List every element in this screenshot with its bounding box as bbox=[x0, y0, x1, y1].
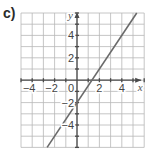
x-tick-label: 4 bbox=[119, 82, 125, 94]
x-tick-label: −4 bbox=[23, 82, 36, 94]
coordinate-plot: −4−2024−4−224xy bbox=[0, 0, 148, 161]
y-tick-label: 4 bbox=[68, 29, 74, 41]
x-tick-label: 2 bbox=[96, 82, 102, 94]
origin-label: 0 bbox=[68, 82, 74, 94]
labels: −4−2024−4−224xy bbox=[23, 9, 143, 131]
x-tick-label: −2 bbox=[45, 82, 58, 94]
axes bbox=[21, 12, 144, 147]
y-tick-label: −4 bbox=[61, 119, 74, 131]
x-axis-label: x bbox=[137, 81, 143, 93]
y-axis-label: y bbox=[67, 9, 73, 21]
y-tick-label: 2 bbox=[68, 52, 74, 64]
y-tick-label: −2 bbox=[61, 97, 74, 109]
